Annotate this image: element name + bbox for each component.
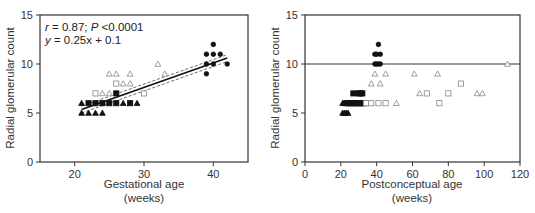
data-point xyxy=(368,81,374,86)
data-point xyxy=(378,62,383,67)
data-point xyxy=(446,91,451,96)
right-y-axis-label: Radial glomerular count xyxy=(269,26,281,148)
data-point xyxy=(372,71,378,76)
data-point xyxy=(211,52,216,57)
data-point xyxy=(435,71,441,76)
data-point xyxy=(376,101,381,106)
data-point xyxy=(393,100,399,105)
data-point xyxy=(383,71,389,76)
right-data-points xyxy=(340,42,511,115)
data-point xyxy=(474,91,480,96)
x-tick-label: 20 xyxy=(335,168,347,180)
data-point xyxy=(417,91,423,96)
right-x-axis-label: Postconceptual age xyxy=(361,178,462,190)
data-point xyxy=(378,52,383,57)
data-point xyxy=(225,62,230,67)
y-tick-label: 5 xyxy=(292,107,298,119)
data-point xyxy=(351,91,356,96)
data-point xyxy=(377,81,383,86)
stats-annotation: r = 0.87; P <0.0001 xyxy=(45,21,144,33)
equation-annotation: y = 0.25x + 0.1 xyxy=(44,34,121,46)
data-point xyxy=(360,91,365,96)
x-tick-label: 0 xyxy=(302,168,308,180)
data-point xyxy=(106,91,112,96)
data-point xyxy=(128,101,133,106)
right-chart: 051015020406080100120 Radial glomerular … xyxy=(269,9,529,204)
y-tick-label: 5 xyxy=(27,107,33,119)
data-point xyxy=(424,91,429,96)
data-point xyxy=(437,101,442,106)
x-tick-label: 40 xyxy=(207,168,219,180)
data-point xyxy=(93,101,98,106)
right-x-axis-unit: (weeks) xyxy=(392,192,432,204)
data-point xyxy=(369,101,374,106)
data-point xyxy=(127,71,133,76)
data-point xyxy=(479,91,485,96)
data-point xyxy=(141,91,146,96)
data-point xyxy=(120,100,126,105)
data-point xyxy=(114,81,119,86)
data-point xyxy=(100,110,106,115)
data-point xyxy=(79,100,85,105)
right-axis-ticks: 051015020406080100120 xyxy=(286,9,529,180)
figure: 051015203040 r = 0.87; P <0.0001 y = 0.2… xyxy=(0,0,535,213)
left-chart: 051015203040 r = 0.87; P <0.0001 y = 0.2… xyxy=(4,9,248,204)
data-point xyxy=(100,101,105,106)
data-point xyxy=(86,101,91,106)
data-point xyxy=(204,62,209,67)
data-point xyxy=(113,71,119,76)
right-plot-frame xyxy=(305,15,520,162)
y-tick-label: 10 xyxy=(286,58,298,70)
data-point xyxy=(376,42,381,47)
left-y-axis-label: Radial glomerular count xyxy=(4,26,16,148)
data-point xyxy=(114,101,119,106)
data-point xyxy=(211,62,216,67)
x-tick-label: 120 xyxy=(511,168,529,180)
data-point xyxy=(162,71,168,76)
data-point xyxy=(211,42,216,47)
data-point xyxy=(411,71,417,76)
left-x-axis-label: Gestational age xyxy=(104,178,185,190)
data-point xyxy=(106,71,112,76)
left-x-axis-unit: (weeks) xyxy=(124,192,164,204)
data-point xyxy=(100,91,106,96)
data-point xyxy=(458,81,463,86)
data-point xyxy=(93,91,98,96)
data-point xyxy=(93,110,99,115)
data-point xyxy=(204,52,209,57)
y-tick-label: 15 xyxy=(21,9,33,21)
y-tick-label: 0 xyxy=(27,156,33,168)
x-tick-label: 100 xyxy=(475,168,493,180)
left-data-points xyxy=(79,42,230,115)
data-point xyxy=(363,101,368,106)
y-tick-label: 10 xyxy=(21,58,33,70)
data-point xyxy=(127,81,133,86)
data-point xyxy=(134,100,140,105)
y-tick-label: 15 xyxy=(286,9,298,21)
data-point xyxy=(107,101,112,106)
data-point xyxy=(120,81,126,86)
data-point xyxy=(114,91,119,96)
x-tick-label: 20 xyxy=(69,168,81,180)
data-point xyxy=(155,61,161,66)
y-tick-label: 0 xyxy=(292,156,298,168)
data-point xyxy=(204,72,209,77)
data-point xyxy=(383,101,388,106)
data-point xyxy=(218,52,223,57)
data-point xyxy=(79,110,85,115)
